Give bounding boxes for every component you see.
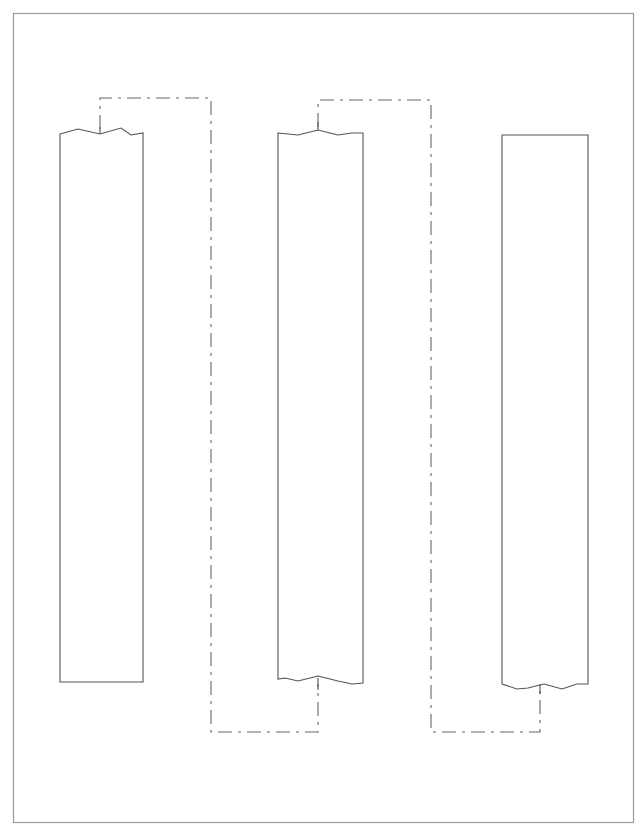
column-1 xyxy=(60,128,143,682)
column-3 xyxy=(502,135,588,689)
diagram-canvas xyxy=(0,0,643,830)
column-2 xyxy=(278,130,363,684)
